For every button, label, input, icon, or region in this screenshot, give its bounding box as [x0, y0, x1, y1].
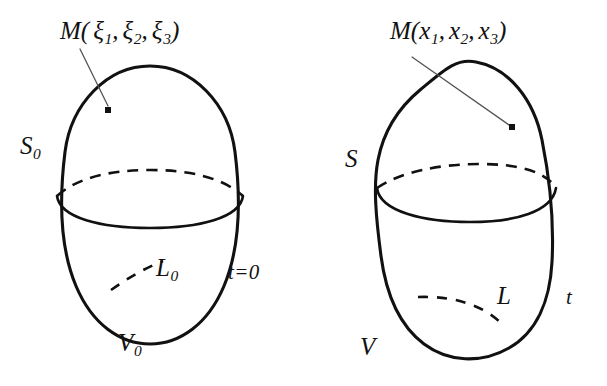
reference-coord-2: ξ: [122, 17, 133, 44]
reference-point-name: M: [60, 17, 81, 44]
reference-volume-label: V0: [118, 330, 142, 355]
current-curve-symbol: L: [497, 282, 511, 309]
figure-drawing: [0, 0, 607, 386]
reference-coord-1-subscript: 1: [104, 30, 112, 47]
current-surface-label: S: [345, 146, 358, 171]
reference-point-open-paren: (: [81, 17, 89, 44]
reference-coord-1: ξ: [93, 17, 104, 44]
reference-time-symbol: t: [228, 260, 234, 284]
current-volume-symbol: V: [360, 333, 375, 360]
current-coord-2: x: [449, 17, 460, 44]
current-coord-2-subscript: 2: [460, 30, 468, 47]
current-volume-label: V: [360, 334, 375, 359]
current-body-outline: [375, 61, 552, 359]
current-curve-label: L: [497, 283, 511, 308]
reference-time-value: 0: [249, 260, 260, 284]
reference-surface-label: S0: [20, 133, 41, 158]
current-coord-3-subscript: 3: [490, 30, 498, 47]
reference-body-outline: [62, 66, 239, 344]
reference-coord-2-subscript: 2: [133, 30, 141, 47]
current-point-marker: [509, 124, 515, 130]
reference-curve-symbol: L: [156, 254, 170, 281]
figure-container: M(ξ1,ξ2,ξ3) S0 L0 V0 t=0 M(x1,x2,x3) S L…: [0, 0, 607, 386]
reference-curve-label: L0: [156, 255, 178, 280]
reference-point-close-paren: ): [171, 17, 179, 44]
reference-point-label: M(ξ1,ξ2,ξ3): [60, 18, 179, 43]
reference-time-relation: =: [234, 260, 249, 284]
current-coord-1: x: [419, 17, 430, 44]
current-sep-2: ,: [468, 17, 474, 44]
current-sep-1: ,: [439, 17, 445, 44]
current-configuration-group: [375, 57, 556, 359]
reference-configuration-group: [57, 49, 243, 344]
reference-coord-3-subscript: 3: [163, 30, 171, 47]
reference-volume-subscript: 0: [133, 342, 141, 359]
current-time-label: t: [566, 287, 572, 308]
reference-surface-symbol: S: [20, 132, 33, 159]
current-point-open-paren: (: [411, 17, 419, 44]
reference-coord-3: ξ: [152, 17, 163, 44]
current-surface-symbol: S: [345, 145, 358, 172]
current-coord-3: x: [479, 17, 490, 44]
reference-curve-subscript: 0: [170, 267, 178, 284]
current-point-close-paren: ): [498, 17, 506, 44]
current-time-symbol: t: [566, 285, 572, 309]
reference-point-marker: [105, 107, 111, 113]
current-point-name: M: [390, 17, 411, 44]
reference-sep-2: ,: [142, 17, 148, 44]
current-point-label: M(x1,x2,x3): [390, 18, 506, 43]
reference-volume-symbol: V: [118, 329, 133, 356]
current-coord-1-subscript: 1: [430, 30, 438, 47]
reference-surface-subscript: 0: [33, 145, 41, 162]
reference-time-label: t=0: [228, 262, 259, 283]
